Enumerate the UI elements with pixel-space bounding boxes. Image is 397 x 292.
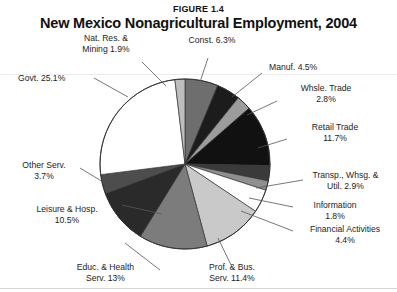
label-retail-line2: 11.7% bbox=[292, 133, 378, 144]
label-other-serv: Other Serv. 3.7% bbox=[8, 160, 80, 181]
label-govt-text: Govt. 25.1% bbox=[18, 73, 108, 84]
label-educ-line2: Serv. 13% bbox=[53, 273, 158, 284]
label-financial-line2: 4.4% bbox=[296, 235, 394, 246]
label-transp-line1: Transp., Whsg. & bbox=[296, 170, 395, 181]
leader-manuf bbox=[232, 73, 262, 97]
label-whsle-trade: Whsle. Trade 2.8% bbox=[281, 83, 371, 104]
label-whsle-line1: Whsle. Trade bbox=[281, 83, 371, 94]
label-prof-line1: Prof. & Bus. bbox=[189, 262, 275, 273]
label-leisure-line2: 10.5% bbox=[16, 215, 118, 226]
label-leisure-hosp: Leisure & Hosp. 10.5% bbox=[16, 204, 118, 225]
label-nat-res-line2: Mining 1.9% bbox=[60, 44, 152, 55]
label-information-line2: 1.8% bbox=[296, 211, 374, 222]
label-financial-line1: Financial Activities bbox=[296, 224, 394, 235]
label-transp-line2: Util. 2.9% bbox=[296, 181, 395, 192]
label-nat-res-mining: Nat. Res. & Mining 1.9% bbox=[60, 33, 152, 54]
label-nat-res-line1: Nat. Res. & bbox=[60, 33, 152, 44]
leader-whsle bbox=[247, 101, 277, 115]
label-retail-trade: Retail Trade 11.7% bbox=[292, 122, 378, 143]
label-const: Const. 6.3% bbox=[166, 35, 258, 46]
label-educ-health-serv: Educ. & Health Serv. 13% bbox=[53, 262, 158, 283]
label-financial-activities: Financial Activities 4.4% bbox=[296, 224, 394, 245]
figure-page: FIGURE 1.4 New Mexico Nonagricultural Em… bbox=[0, 0, 397, 292]
label-information: Information 1.8% bbox=[296, 200, 374, 221]
label-other-line2: 3.7% bbox=[8, 171, 80, 182]
label-manuf-text: Manuf. 4.5% bbox=[269, 62, 369, 73]
label-manuf: Manuf. 4.5% bbox=[269, 62, 369, 73]
pie-slices bbox=[100, 79, 270, 249]
label-const-text: Const. 6.3% bbox=[166, 35, 258, 46]
bottom-divider bbox=[0, 288, 397, 289]
leader-const bbox=[200, 58, 208, 82]
label-information-line1: Information bbox=[296, 200, 374, 211]
label-educ-line1: Educ. & Health bbox=[53, 262, 158, 273]
label-retail-line1: Retail Trade bbox=[292, 122, 378, 133]
leader-prof bbox=[218, 238, 231, 265]
label-whsle-line2: 2.8% bbox=[281, 94, 371, 105]
label-govt: Govt. 25.1% bbox=[18, 73, 108, 84]
leader-natres bbox=[142, 62, 166, 86]
label-prof-bus-serv: Prof. & Bus. Serv. 11.4% bbox=[189, 262, 275, 283]
label-leisure-line1: Leisure & Hosp. bbox=[16, 204, 118, 215]
label-other-line1: Other Serv. bbox=[8, 160, 80, 171]
label-transp-whsg-util: Transp., Whsg. & Util. 2.9% bbox=[296, 170, 395, 191]
label-prof-line2: Serv. 11.4% bbox=[189, 273, 275, 284]
pie-chart: Nat. Res. & Mining 1.9% Const. 6.3% Manu… bbox=[0, 0, 397, 292]
leader-financial bbox=[241, 211, 293, 231]
pie-slice bbox=[100, 80, 185, 175]
